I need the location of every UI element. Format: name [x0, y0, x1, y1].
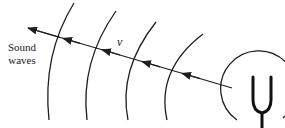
- ray-arrow-head-end: [28, 28, 60, 37]
- sound-label-line2: waves: [2, 54, 42, 67]
- ray-arrow-mid-3: [142, 62, 160, 67]
- sound-label-line1: Sound: [2, 41, 42, 54]
- velocity-label: v: [117, 36, 122, 49]
- sound-waves-label: Sound waves: [2, 41, 42, 67]
- tuning-fork-icon: [253, 77, 271, 128]
- ray-arrow-mid-2: [102, 50, 120, 55]
- wavefront-arc-3: [126, 22, 156, 120]
- sound-wave-diagram: Sound waves v: [0, 0, 285, 128]
- wavefront-arc-1: [48, 3, 74, 120]
- ray-arrow-mid-4: [182, 73, 200, 78]
- wavefronts: [48, 3, 203, 120]
- wavefront-arc-4: [165, 34, 203, 120]
- wavefront-arc-2: [86, 11, 116, 120]
- ray-arrow-mid-1: [63, 38, 80, 43]
- diagram-canvas: [0, 0, 285, 128]
- propagation-ray: [28, 28, 232, 88]
